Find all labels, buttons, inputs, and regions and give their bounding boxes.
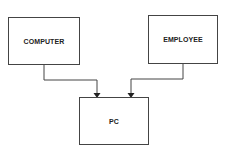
- node-label: EMPLOYEE: [163, 36, 203, 43]
- node-computer: COMPUTER: [8, 17, 80, 65]
- node-label: PC: [109, 118, 119, 125]
- edge-computer-pc: [44, 65, 97, 94]
- node-label: COMPUTER: [24, 38, 65, 45]
- node-employee: EMPLOYEE: [148, 15, 218, 64]
- edge-employee-pc: [131, 64, 183, 94]
- node-pc: PC: [79, 97, 149, 145]
